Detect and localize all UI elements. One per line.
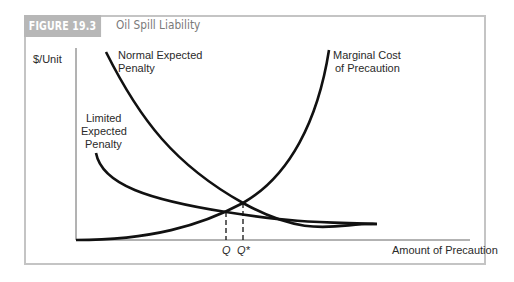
- q-tick-label: Q: [222, 244, 231, 256]
- qstar-tick-label: Q*: [237, 244, 251, 256]
- limited-penalty-label-line3: Penalty: [85, 138, 122, 150]
- y-axis-label: $/Unit: [33, 53, 62, 65]
- x-axis-label: Amount of Precaution: [392, 244, 498, 256]
- normal-penalty-label-line2: Penalty: [118, 62, 155, 74]
- limited-penalty-label-line2: Expected: [81, 125, 127, 137]
- normal-penalty-label-line1: Normal Expected: [118, 49, 202, 61]
- limited-expected-penalty-curve: [96, 153, 377, 224]
- marginal-cost-label-line2: of Precaution: [335, 62, 400, 74]
- limited-penalty-label-line1: Limited: [86, 112, 121, 124]
- chart-plot: $/Unit Amount of Precaution Normal Expec…: [0, 0, 514, 282]
- marginal-cost-label-line1: Marginal Cost: [333, 49, 401, 61]
- normal-expected-penalty-curve: [106, 52, 377, 227]
